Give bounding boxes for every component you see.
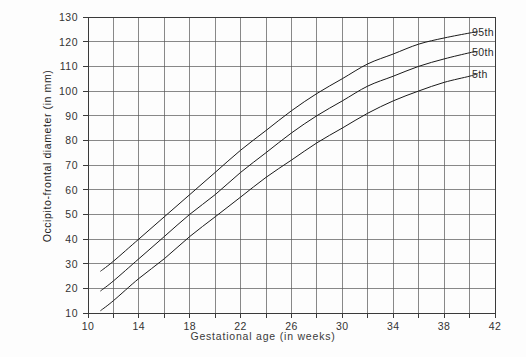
series-label-5th: 5th [472, 68, 488, 80]
x-tick-label: 22 [226, 321, 256, 332]
y-tick-label: 80 [44, 135, 78, 146]
y-tick-label: 120 [44, 37, 78, 48]
x-tick-label: 34 [378, 321, 408, 332]
y-tick-label: 130 [44, 12, 78, 23]
x-tick-label: 18 [175, 321, 205, 332]
y-tick-label: 110 [44, 61, 78, 72]
x-tick-label: 10 [73, 321, 103, 332]
y-tick-label: 10 [44, 308, 78, 319]
series-label-50th: 50th [472, 46, 494, 58]
percentile-curves [101, 32, 477, 311]
x-tick-label: 38 [429, 321, 459, 332]
x-tick-label: 26 [277, 321, 307, 332]
y-tick-label: 30 [44, 259, 78, 270]
y-tick-label: 20 [44, 283, 78, 294]
y-tick-label: 70 [44, 160, 78, 171]
growth-chart: Occipito-frontal diameter (in mm) Gestat… [0, 0, 526, 357]
y-tick-label: 60 [44, 185, 78, 196]
series-label-95th: 95th [472, 26, 494, 38]
x-tick-label: 14 [124, 321, 154, 332]
y-tick-label: 100 [44, 86, 78, 97]
y-tick-label: 40 [44, 234, 78, 245]
x-tick-label: 30 [327, 321, 357, 332]
y-tick-label: 90 [44, 111, 78, 122]
plot-area [0, 0, 526, 357]
x-tick-label: 42 [480, 321, 510, 332]
y-tick-label: 50 [44, 209, 78, 220]
